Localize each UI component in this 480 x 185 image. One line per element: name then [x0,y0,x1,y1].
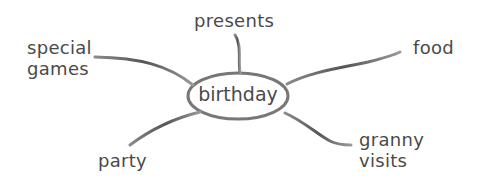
branch-label-granny-visits: granny visits [359,129,424,171]
branch-label-party: party [98,150,147,171]
branch-party [130,112,200,145]
branch-granny-visits [285,113,351,145]
branch-label-presents: presents [194,10,274,31]
center-node-label: birthday [188,82,288,106]
branch-food [287,52,400,84]
branch-presents [235,35,240,73]
branch-label-special-games: special games [27,37,92,79]
branch-label-food: food [413,37,454,58]
branch-special-games [95,57,193,85]
